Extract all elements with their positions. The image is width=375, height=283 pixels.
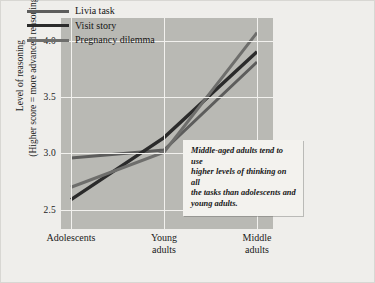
legend-item-livia-task[interactable]: Livia task xyxy=(27,6,155,16)
annotation-line-1: Middle-aged adults tend to use xyxy=(191,146,296,167)
gridline-x-young-adults xyxy=(164,18,165,229)
chart-page: Level of reasoning (Higher score = more … xyxy=(0,0,375,283)
x-tick-middle-adults: Middleadults xyxy=(243,232,272,255)
annotation-callout: Middle-aged adults tend to usehigher lev… xyxy=(183,140,303,216)
legend-swatch-livia-task xyxy=(27,10,69,13)
legend-label-livia-task: Livia task xyxy=(75,6,115,16)
y-axis-tick-labels: 4.0 3.5 3.0 2.5 xyxy=(1,18,61,229)
legend-label-pregnancy-dilemma: Pregnancy dilemma xyxy=(75,35,155,45)
legend-item-visit-story[interactable]: Visit story xyxy=(27,21,155,31)
x-tick-adolescents: Adolescents xyxy=(47,232,96,244)
x-tick-young-adults: Youngadults xyxy=(151,232,177,255)
y-tick-3.0: 3.0 xyxy=(44,148,56,158)
y-tick-2.5: 2.5 xyxy=(44,205,56,215)
annotation-line-3: the tasks than adolescents and xyxy=(191,188,296,199)
legend-swatch-visit-story xyxy=(27,24,69,27)
legend-label-visit-story: Visit story xyxy=(75,21,116,31)
annotation-line-4: young adults. xyxy=(191,199,296,210)
legend-item-pregnancy-dilemma[interactable]: Pregnancy dilemma xyxy=(27,35,155,45)
legend-swatch-pregnancy-dilemma xyxy=(27,39,69,42)
annotation-line-2: higher levels of thinking on all xyxy=(191,167,296,188)
gridline-x-adolescents xyxy=(71,18,72,229)
chart-legend: Livia taskVisit storyPregnancy dilemma xyxy=(27,6,155,45)
y-tick-3.5: 3.5 xyxy=(44,92,56,102)
gridline-y-3.5 xyxy=(61,97,273,98)
